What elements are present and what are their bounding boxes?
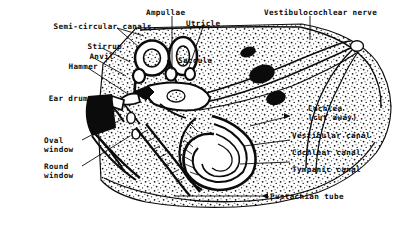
label-vestibulocochlear-nerve: Vestibulocochlear nerve [264,8,377,17]
label-ear-drum: Ear drum [14,94,88,103]
label-round-window: Round window [44,162,74,180]
label-tympanic-canal: Tympanic canal [292,165,361,174]
label-cochlear-canal: Cochlear canal [292,148,361,157]
label-anvil: Anvil [30,52,114,61]
label-eustachian-tube: Eustachian tube [270,192,344,201]
label-vestibular-canal: Vestibular canal [292,131,371,140]
label-semicircular-canals: Semi-circular canals [6,22,152,31]
label-ampullae: Ampullae [146,8,185,17]
label-hammer: Hammer [22,62,98,71]
label-cochlea-cut-away: Cochlea (cut away) [308,104,357,122]
label-utricle: Utricle [186,19,220,28]
label-oval-window: Oval window [44,136,74,154]
label-stirrup: Stirrup [30,42,122,51]
ear-anatomy-figure: Semi-circular canals Stirrup Anvil Hamme… [0,0,415,226]
label-saccule: Saccule [178,56,212,65]
